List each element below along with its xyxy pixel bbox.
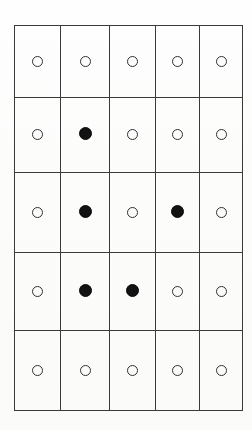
circle-marker-r4c2[interactable] xyxy=(79,284,92,297)
circle-marker-r3c5[interactable] xyxy=(216,207,227,218)
grid-cell-r1c3[interactable] xyxy=(110,26,156,98)
grid-row xyxy=(15,173,243,253)
circle-marker-r2c5[interactable] xyxy=(216,129,227,140)
circle-marker-r5c1[interactable] xyxy=(32,365,43,376)
circle-marker-r5c4[interactable] xyxy=(172,365,183,376)
grid-cell-r1c2[interactable] xyxy=(61,26,110,98)
grid-row xyxy=(15,98,243,173)
grid-row xyxy=(15,331,243,411)
grid-cell-r4c2[interactable] xyxy=(61,253,110,331)
circle-marker-r4c4[interactable] xyxy=(172,286,183,297)
grid-cell-r5c3[interactable] xyxy=(110,331,156,411)
grid-cell-r1c1[interactable] xyxy=(15,26,61,98)
grid-cell-r1c5[interactable] xyxy=(200,26,243,98)
grid-cell-r5c1[interactable] xyxy=(15,331,61,411)
circle-marker-r5c2[interactable] xyxy=(80,365,91,376)
page-root xyxy=(0,0,252,430)
grid-cell-r3c3[interactable] xyxy=(110,173,156,253)
circle-marker-r3c4[interactable] xyxy=(171,205,184,218)
circle-grid xyxy=(14,25,243,411)
grid-cell-r2c5[interactable] xyxy=(200,98,243,173)
circle-marker-r2c3[interactable] xyxy=(127,129,138,140)
circle-marker-r3c3[interactable] xyxy=(127,207,138,218)
grid-cell-r2c4[interactable] xyxy=(156,98,200,173)
grid-cell-r5c5[interactable] xyxy=(200,331,243,411)
grid-cell-r4c5[interactable] xyxy=(200,253,243,331)
circle-marker-r2c4[interactable] xyxy=(172,129,183,140)
grid-body xyxy=(15,26,243,411)
grid-cell-r2c3[interactable] xyxy=(110,98,156,173)
circle-marker-r5c5[interactable] xyxy=(216,365,227,376)
grid-cell-r4c1[interactable] xyxy=(15,253,61,331)
grid-cell-r3c4[interactable] xyxy=(156,173,200,253)
circle-marker-r2c2[interactable] xyxy=(79,127,92,140)
circle-marker-r3c1[interactable] xyxy=(32,207,43,218)
circle-marker-r1c5[interactable] xyxy=(216,56,227,67)
circle-marker-r1c2[interactable] xyxy=(80,56,91,67)
grid-row xyxy=(15,26,243,98)
circle-marker-r4c5[interactable] xyxy=(216,286,227,297)
grid-cell-r1c4[interactable] xyxy=(156,26,200,98)
grid-cell-r2c1[interactable] xyxy=(15,98,61,173)
grid-cell-r3c2[interactable] xyxy=(61,173,110,253)
grid-cell-r4c4[interactable] xyxy=(156,253,200,331)
grid-cell-r5c4[interactable] xyxy=(156,331,200,411)
circle-marker-r2c1[interactable] xyxy=(32,129,43,140)
circle-marker-r4c1[interactable] xyxy=(32,286,43,297)
grid-cell-r4c3[interactable] xyxy=(110,253,156,331)
circle-marker-r1c3[interactable] xyxy=(127,56,138,67)
grid-cell-r2c2[interactable] xyxy=(61,98,110,173)
circle-marker-r5c3[interactable] xyxy=(127,365,138,376)
grid-cell-r3c5[interactable] xyxy=(200,173,243,253)
circle-marker-r3c2[interactable] xyxy=(79,205,92,218)
grid-row xyxy=(15,253,243,331)
circle-marker-r1c1[interactable] xyxy=(32,56,43,67)
circle-marker-r1c4[interactable] xyxy=(172,56,183,67)
grid-cell-r3c1[interactable] xyxy=(15,173,61,253)
grid-cell-r5c2[interactable] xyxy=(61,331,110,411)
circle-marker-r4c3[interactable] xyxy=(126,284,139,297)
